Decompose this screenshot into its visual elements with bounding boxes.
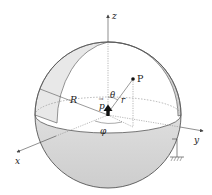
x-axis-label: x xyxy=(15,156,20,166)
point-p-marker xyxy=(131,77,135,81)
radius-label: R xyxy=(69,94,77,105)
right-cutaway-crescent xyxy=(108,42,181,116)
lower-hemisphere xyxy=(35,115,181,188)
dipole-icon xyxy=(104,105,113,117)
dipole-label: p xyxy=(99,101,105,111)
sphere-dipole-diagram: z y x R P r θ φ p → xyxy=(0,0,212,195)
theta-label: θ xyxy=(110,90,115,100)
distance-r-label: r xyxy=(121,95,126,105)
point-p-label: P xyxy=(137,73,144,84)
z-axis-label: z xyxy=(111,11,117,21)
phi-label: φ xyxy=(100,126,107,136)
phi-arc xyxy=(95,121,122,123)
y-axis-label: y xyxy=(193,135,200,145)
y-axis-outer xyxy=(180,127,203,131)
dipole-vector-arrow: → xyxy=(99,95,104,102)
